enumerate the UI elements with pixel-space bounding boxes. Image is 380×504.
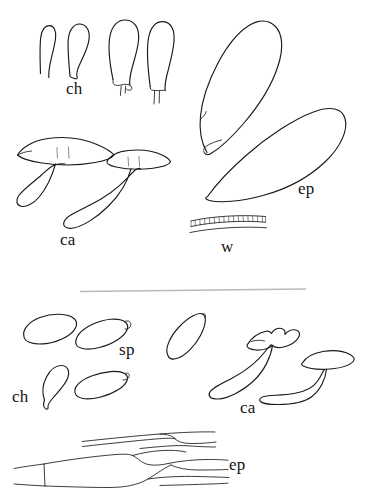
epicutis-cell-septum-leftlow [14, 484, 45, 486]
cheilocystidium-1 [40, 26, 56, 78]
caulocystidium-left-stalk [17, 164, 65, 207]
spore-3 [167, 314, 205, 360]
caulocystidium-right-cap [107, 150, 171, 169]
caulocystidium-lower-right-cap [302, 351, 355, 369]
cheilocystidium-3-base [113, 80, 132, 91]
hyphal-wall-bottom-edge [190, 227, 267, 232]
epicutis-hypha-top-4 [140, 446, 216, 449]
epicutis-hyphae-lower-group [14, 432, 229, 488]
caulocystidium-right-septum-b [139, 157, 140, 167]
cheilocystidium-4-stalk [154, 91, 159, 104]
epicutis-cell-left-wall [44, 464, 45, 486]
label-caulocystidia-lower: ca [240, 399, 256, 416]
spore-4 [75, 371, 128, 398]
label-caulocystidia-upper: ca [60, 231, 76, 248]
hyphal-wall-mid-edge [191, 221, 266, 226]
epicutis-hypha-top-3 [160, 434, 216, 444]
caulocystidium-left-septum-b [69, 147, 70, 158]
cheilocystidium-lower [43, 365, 69, 409]
epicutis-cell-outline-bottom [45, 465, 171, 488]
epicutis-hypha-right-3 [148, 476, 229, 479]
label-spores: sp [119, 341, 135, 358]
epicutis-hypha-right-1 [168, 460, 228, 464]
caulocystidia-lower-group [209, 328, 354, 404]
label-cheilocystidia-upper: ch [66, 80, 83, 97]
label-epicutis-lower: ep [229, 456, 246, 473]
epicutis-hypha-right-5 [133, 450, 187, 455]
caulocystidium-right-septum-a [128, 157, 129, 166]
cheilocystidium-3 [109, 20, 139, 85]
panel-divider [80, 289, 306, 292]
line-drawing-canvas [0, 0, 380, 504]
caulocystidium-lower-left-notch [252, 340, 265, 341]
label-epicutis-upper: ep [298, 180, 315, 197]
hyphal-wall-striations [195, 216, 263, 226]
caulocystidium-lower-left-stalk [209, 345, 272, 399]
label-cheilocystidium-lower: ch [12, 388, 29, 405]
epicutis-hypha-right-4 [160, 483, 228, 485]
caulocystidium-lower-left-head [247, 328, 300, 350]
label-hyphal-wall: w [221, 238, 234, 255]
epicutis-hypha-right-2 [171, 465, 228, 470]
epicutis-cell-outline-top [44, 454, 168, 465]
spore-1 [24, 314, 77, 344]
figure-plate: ch ca ep w sp ch ca ep [0, 0, 380, 504]
epicutis-cell-upper [200, 21, 282, 155]
spores-group [24, 314, 206, 399]
epicutis-cells-upper-group [200, 21, 346, 202]
cheilocystidium-2 [68, 24, 89, 79]
caulocystidium-right-stalk [64, 168, 141, 228]
hyphal-wall-band-group [190, 216, 267, 233]
hyphal-wall-top-edge [191, 216, 266, 221]
caulocystidium-left-cap [18, 138, 115, 165]
epicutis-cell-septum-left [14, 464, 44, 469]
cheilocystidium-lower-group [43, 365, 69, 409]
cheilocystidium-4 [148, 22, 175, 91]
epicutis-cell-upper-shoulder [201, 112, 206, 119]
cheilocystidia-upper-group [40, 20, 174, 104]
cheilocystidium-3-stalk [120, 86, 125, 96]
caulocystidia-upper-group [17, 138, 171, 229]
epicutis-hypha-top-2 [83, 438, 176, 446]
epicutis-cell-lower [206, 109, 346, 202]
caulocystidium-lower-right-stalk [260, 369, 327, 404]
cheilocystidium-4-base [150, 87, 165, 91]
